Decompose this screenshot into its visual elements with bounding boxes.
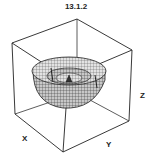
surface-mesh bbox=[32, 57, 106, 108]
z-axis-label: Z bbox=[140, 91, 145, 100]
x-axis-label: X bbox=[22, 134, 27, 143]
y-axis-label: Y bbox=[106, 140, 111, 149]
